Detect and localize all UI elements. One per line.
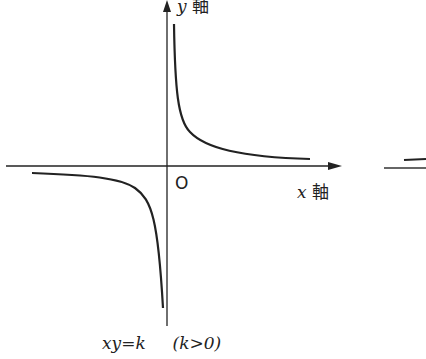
y-axis-var: y: [177, 0, 187, 16]
hyperbola-diagram: [0, 0, 426, 359]
partial-curve-right: [404, 159, 426, 160]
hyperbola-branch-q1: [174, 24, 310, 159]
caption: xy=k (k>0): [102, 333, 221, 353]
hyperbola-branch-q3: [32, 173, 163, 308]
x-axis-arrow-icon: [328, 162, 342, 170]
y-axis-kanji: 軸: [192, 0, 209, 16]
caption-equation: xy=k: [102, 333, 146, 353]
x-axis-var: x: [297, 182, 307, 202]
x-axis-label: x 軸: [297, 178, 329, 203]
origin-label: O: [175, 173, 188, 193]
caption-condition: (k>0): [173, 333, 222, 353]
x-axis-kanji: 軸: [312, 182, 329, 202]
y-axis-label: y 軸: [177, 0, 209, 17]
y-axis-arrow-icon: [163, 0, 171, 12]
